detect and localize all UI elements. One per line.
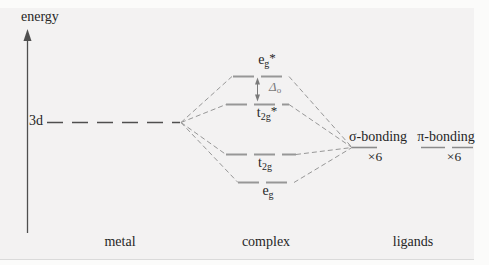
delta-base: Δ: [269, 79, 277, 94]
energy-axis-label: energy: [21, 10, 59, 25]
up-arrowhead-icon: [255, 78, 260, 85]
delta-sub: o: [277, 85, 282, 95]
down-arrowhead-icon: [255, 95, 260, 102]
connector-egstar-sigma: [289, 77, 352, 148]
column-label-metal: metal: [104, 235, 135, 250]
connector-eg-sigma: [294, 148, 352, 183]
up-arrowhead-icon: [24, 29, 32, 41]
column-label-complex: complex: [242, 235, 290, 250]
connector-t2g-sigma: [296, 148, 352, 155]
connector-3d-t2gstar: [181, 105, 226, 123]
diagram-lines: [0, 0, 489, 265]
level-t2gstar-label: t2g*: [257, 106, 277, 121]
level-3d-label: 3d: [29, 114, 43, 129]
level-egstar-label: eg*: [258, 53, 276, 68]
connector-t2gstar-sigma: [289, 105, 352, 148]
orbital-sub: 2g: [262, 161, 272, 172]
orbital-sup: *: [269, 50, 276, 65]
level-eg-label: eg: [262, 184, 273, 199]
orbital-sub: g: [269, 189, 274, 200]
sigma-bonding-label: σ-bonding: [349, 130, 407, 145]
connector-3d-t2g: [181, 123, 226, 155]
pi-bonding-label: π-bonding: [417, 130, 475, 145]
delta-o-label: Δo: [269, 80, 281, 93]
level-t2g-label: t2g: [258, 156, 272, 171]
connector-3d-egstar: [181, 77, 232, 123]
pi-multiplicity: ×6: [447, 150, 461, 164]
orbital-sup: *: [271, 103, 278, 118]
connector-3d-eg: [181, 123, 238, 183]
sigma-multiplicity: ×6: [368, 150, 382, 164]
orbital-sub: 2g: [261, 111, 271, 122]
column-label-ligands: ligands: [393, 235, 433, 250]
mo-diagram: energy 3d eg* Δo t2g* t2g eg σ-bonding ×…: [0, 0, 489, 265]
